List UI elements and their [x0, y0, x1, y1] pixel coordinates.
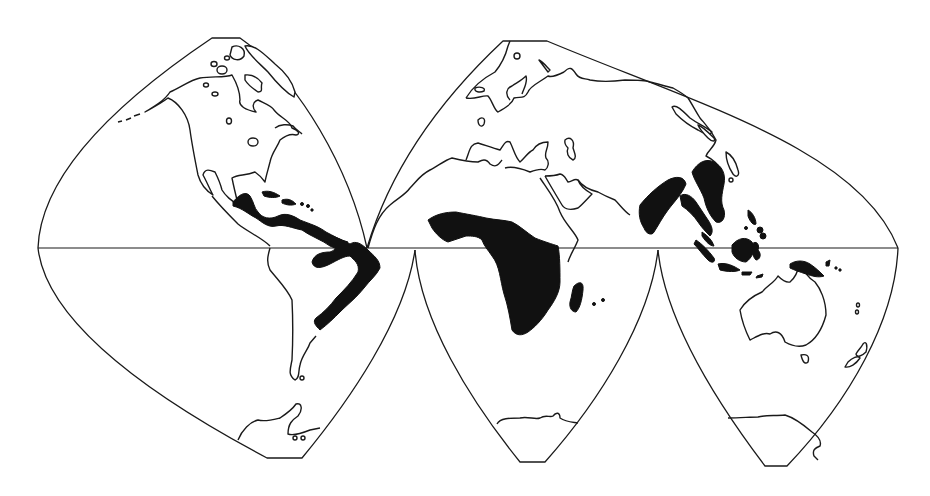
new-zealand-south: [845, 357, 860, 367]
region-philippines-island: [757, 227, 763, 233]
aleutian-islands: [118, 114, 140, 122]
iceland: [475, 87, 485, 92]
region-mascarene-island: [593, 303, 596, 306]
japan: [726, 152, 739, 176]
region-africa: [428, 212, 560, 335]
region-philippines: [748, 210, 756, 225]
arctic-island: [204, 83, 209, 87]
pacific-island: [856, 310, 859, 314]
hudson-island: [227, 118, 232, 124]
europe-south-coast: [466, 142, 548, 172]
region-borneo: [732, 238, 754, 262]
arctic-islands: [230, 46, 244, 60]
region-solomon-island: [835, 267, 837, 269]
region-solomon-island: [839, 269, 841, 271]
great-lakes: [248, 138, 258, 146]
region-mascarene-island: [602, 299, 605, 302]
region-caribbean-island: [301, 203, 304, 206]
region-philippines-island: [745, 227, 748, 230]
region-hispaniola: [282, 199, 296, 205]
region-caribbean-island: [311, 209, 313, 211]
region-philippines-island: [760, 233, 766, 239]
svalbard: [514, 53, 520, 59]
antarctica-west: [238, 404, 320, 440]
region-madagascar: [570, 283, 583, 312]
world-map: [0, 0, 930, 496]
antarctic-island: [293, 436, 297, 440]
british-isles: [478, 118, 485, 126]
japan-island: [729, 178, 733, 182]
antarctica-east: [728, 415, 821, 460]
north-america-lobe: [38, 38, 367, 248]
new-zealand-north: [856, 343, 867, 357]
world-map-svg: [0, 0, 930, 496]
projection-outline: [38, 38, 898, 466]
greenland: [245, 46, 295, 97]
tasmania: [801, 355, 809, 363]
baffin-island: [245, 75, 262, 92]
arctic-island: [217, 66, 227, 74]
caspian-sea: [565, 138, 576, 160]
europe-coast: [466, 41, 564, 112]
iran-india-coast: [578, 180, 630, 215]
north-america: [145, 75, 299, 204]
arctic-island: [225, 56, 230, 60]
region-lesser-sunda: [742, 272, 752, 275]
region-sulawesi: [752, 242, 760, 260]
novaya-zemlya: [539, 60, 550, 72]
region-new-britain: [826, 260, 830, 266]
region-india: [639, 177, 686, 234]
arabia-coast: [545, 174, 592, 209]
arctic-island: [212, 92, 218, 96]
antarctic-island: [301, 436, 305, 440]
region-java: [718, 263, 740, 271]
region-caribbean-island: [307, 205, 310, 208]
arctic-island: [211, 62, 217, 67]
south-america-west-coast: [268, 248, 316, 380]
region-cuba: [262, 191, 280, 197]
falkland-islands: [300, 376, 304, 380]
pacific-island: [857, 303, 860, 307]
region-new-guinea: [790, 261, 824, 277]
region-timor: [756, 274, 763, 278]
antarctica-middle: [497, 413, 578, 424]
